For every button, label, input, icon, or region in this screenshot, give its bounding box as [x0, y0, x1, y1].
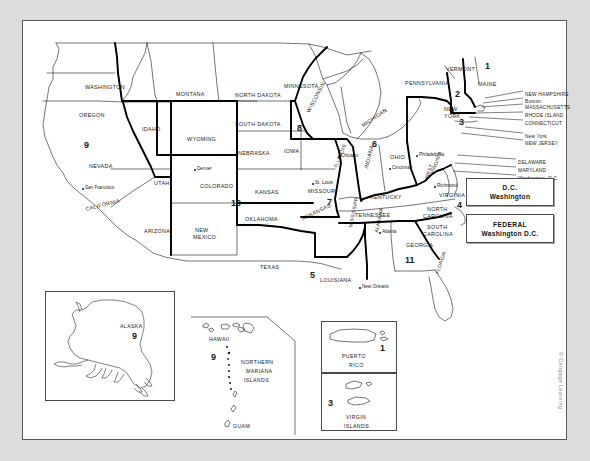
city-dot-icon: [359, 287, 361, 289]
city-dot-icon: [389, 168, 391, 170]
state-label: VIRGINIA: [439, 193, 465, 198]
city-dot-icon: [194, 169, 196, 171]
legend-federal-line1: FEDERAL: [493, 221, 527, 228]
copyright-credit: © Cengage Learning: [558, 352, 564, 409]
guam-label: GUAM: [233, 424, 250, 429]
state-label: CAROLINA: [423, 232, 453, 237]
alaska-label: ALASKA: [120, 324, 143, 329]
state-label: OREGON: [79, 113, 105, 118]
northeast-callout-label: DELAWARE: [518, 161, 546, 166]
circuit-number: 8: [297, 124, 302, 133]
city-dot-icon: [379, 232, 381, 234]
city-dot-icon: [82, 188, 84, 190]
state-label: KENTUCKY: [370, 195, 402, 200]
northern-mariana-line1: NORTHERN: [241, 360, 274, 365]
state-label: UTAH: [154, 181, 169, 186]
northeast-callout-label: MARYLAND: [518, 169, 546, 174]
state-label: NORTH: [427, 207, 448, 212]
circuit-number: 5: [310, 271, 315, 280]
state-label: VERMONT: [446, 67, 475, 72]
circuit-number: 11: [405, 256, 415, 265]
circuit-number: 1: [485, 62, 490, 71]
legend-dc-line1: D.C.: [503, 184, 518, 191]
inset-alaska: ALASKA 9: [45, 291, 175, 401]
state-label: MISSOURI: [308, 189, 337, 194]
city-label: Cincinnati: [392, 166, 412, 171]
city-dot-icon: [312, 183, 314, 185]
city-dot-icon: [434, 186, 436, 188]
city-label: Atlanta: [382, 230, 396, 235]
state-label: KANSAS: [255, 190, 279, 195]
state-label: MEXICO: [193, 235, 216, 240]
state-label: YORK: [444, 114, 460, 119]
state-label: GEORGIA: [406, 243, 433, 248]
puerto-rico-line2: RICO: [349, 363, 364, 368]
state-label: CAROLINA: [423, 214, 453, 219]
legend-box-dc: D.C. Washington: [466, 178, 554, 206]
state-label: NEBRASKA: [238, 151, 270, 156]
state-label: SOUTH DAKOTA: [235, 122, 281, 127]
state-label: WYOMING: [187, 137, 216, 142]
virgin-islands-outline: [322, 374, 396, 430]
northeast-callout-label: CONNECTICUT: [525, 122, 562, 127]
state-label: MINNESOTA: [284, 84, 318, 89]
state-label: PENNSYLVANIA: [405, 81, 449, 86]
state-label: OKLAHOMA: [245, 217, 278, 222]
city-dot-icon: [416, 155, 418, 157]
state-label: LOUISIANA: [320, 278, 351, 283]
state-label: MONTANA: [176, 92, 205, 97]
circuit-number: 4: [457, 201, 462, 210]
circuit-number: 2: [455, 90, 460, 99]
inset-pacific: HAWAII 9 NORTHERN MARIANA ISLANDS GUAM: [191, 297, 299, 435]
northeast-callout-label: NEW HAMPSHIRE: [525, 93, 569, 98]
state-label: COLORADO: [200, 184, 233, 189]
northern-mariana-line2: MARIANA: [246, 369, 272, 374]
puerto-rico-line1: PUERTO: [342, 354, 366, 359]
state-label: TENNESSEE: [355, 213, 390, 218]
alaska-outline: [46, 292, 174, 400]
circuit-number: 9: [84, 141, 89, 150]
map-page: WASHINGTONOREGONIDAHOMONTANANORTH DAKOTA…: [0, 0, 590, 461]
state-label: OHIO: [390, 155, 405, 160]
circuit-number: 10: [231, 199, 241, 208]
legend-dc-line2: Washington: [490, 193, 530, 200]
alaska-circuit-number: 9: [132, 332, 137, 341]
northeast-callout-label: RHODE ISLAND: [525, 114, 563, 119]
state-label: NEW: [195, 228, 208, 233]
state-label: ARIZONA: [144, 229, 170, 234]
virgin-islands-line1: VIRGIN: [346, 415, 366, 420]
circuit-number: 3: [459, 118, 464, 127]
city-dot-icon: [338, 156, 340, 158]
state-label: IDAHO: [142, 127, 161, 132]
hawaii-label: HAWAII: [209, 337, 229, 342]
state-label: MAINE: [478, 82, 497, 87]
northeast-callout-label: New York: [525, 135, 547, 140]
city-label: New Orleans: [362, 285, 389, 290]
state-label: NEW: [444, 107, 457, 112]
northeast-callout-label: NEW JERSEY: [525, 142, 558, 147]
city-label: Chicago: [341, 154, 358, 159]
city-label: St. Louis: [315, 181, 333, 186]
state-label: IOWA: [284, 149, 299, 154]
inset-caribbean: 1 PUERTO RICO 3 VIRGIN ISLANDS: [313, 297, 405, 435]
pacific-circuit-number: 9: [211, 353, 216, 362]
state-label: TEXAS: [260, 265, 279, 270]
state-label: NORTH DAKOTA: [235, 93, 281, 98]
circuit-number: 6: [372, 140, 377, 149]
legend-federal-line2: Washington D.C.: [482, 230, 539, 237]
state-label: NEVADA: [89, 164, 113, 169]
inset-puerto-rico: 1 PUERTO RICO: [321, 321, 397, 373]
northern-mariana-line3: ISLANDS: [244, 378, 269, 383]
city-label: Denver: [197, 167, 212, 172]
legend-box-federal: FEDERAL Washington D.C.: [466, 214, 554, 243]
city-label: Richmond: [437, 184, 458, 189]
state-label: WASHINGTON: [85, 85, 125, 90]
circuit-number: 7: [327, 198, 332, 207]
virgin-islands-line2: ISLANDS: [344, 424, 369, 429]
state-label: SOUTH: [427, 225, 447, 230]
city-label: Philadelphia: [419, 153, 444, 158]
pacific-islands-outline: [191, 297, 299, 435]
inset-virgin-islands: 3 VIRGIN ISLANDS: [321, 373, 397, 431]
virgin-islands-circuit-number: 3: [328, 399, 333, 408]
puerto-rico-circuit-number: 1: [380, 344, 385, 353]
